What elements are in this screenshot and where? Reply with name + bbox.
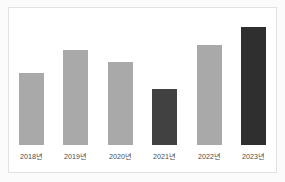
- tick-label-2019: 2019년: [61, 152, 91, 163]
- tick-label-2018: 2018년: [17, 152, 47, 163]
- bars-row: [19, 18, 266, 146]
- bar-2021[interactable]: [152, 89, 177, 146]
- plot-frame: 2018년 2019년 2020년 2021년 2022년 2023년: [8, 7, 277, 173]
- tick-label-2020: 2020년: [106, 152, 136, 163]
- bar-2020[interactable]: [108, 62, 133, 146]
- bar-group-2020: [108, 18, 133, 146]
- bar-2023[interactable]: [241, 27, 266, 146]
- bar-chart-figure: 2018년 2019년 2020년 2021년 2022년 2023년: [0, 0, 285, 182]
- bar-group-2022: [197, 18, 222, 146]
- bar-group-2019: [63, 18, 88, 146]
- x-axis-baseline: [19, 145, 266, 146]
- bar-2019[interactable]: [63, 50, 88, 146]
- bar-group-2023: [241, 18, 266, 146]
- x-axis-tick-labels: 2018년 2019년 2020년 2021년 2022년 2023년: [19, 148, 266, 166]
- tick-label-2022: 2022년: [194, 152, 224, 163]
- bar-2022[interactable]: [197, 45, 222, 146]
- tick-label-2021: 2021년: [150, 152, 180, 163]
- bar-group-2021: [152, 18, 177, 146]
- bar-group-2018: [19, 18, 44, 146]
- bar-2018[interactable]: [19, 73, 44, 146]
- plot-area: [19, 18, 266, 146]
- tick-label-2023: 2023년: [239, 152, 269, 163]
